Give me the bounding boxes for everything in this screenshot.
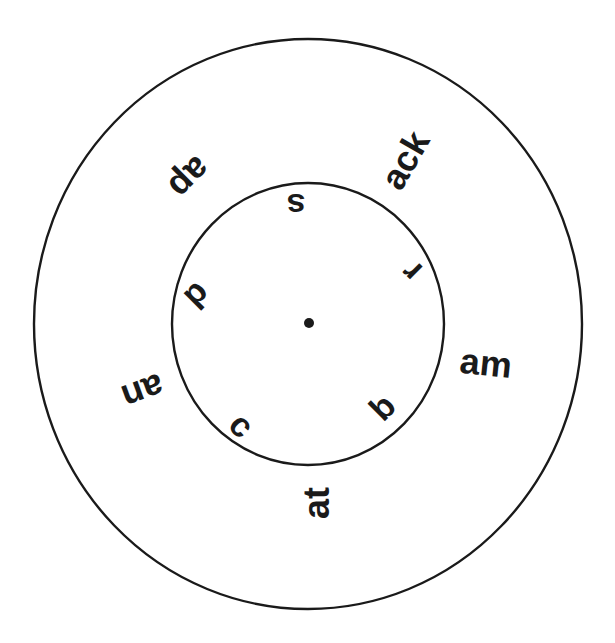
inner-letter-r: r [393,254,429,290]
inner-wheel-letters: srbcd [177,187,429,445]
outer-ending-ack: ack [372,123,438,196]
inner-letter-d: d [177,275,219,317]
outer-ending-am: am [458,340,514,386]
outer-ending-ap: ap [161,149,220,208]
outer-ending-at: at [296,487,337,519]
center-pivot-dot [304,318,314,328]
outer-ending-an: an [116,366,170,419]
word-wheel-diagram: srbcd apackamatan [0,0,615,643]
inner-letter-b: b [361,386,403,428]
inner-letter-s: s [287,187,306,225]
